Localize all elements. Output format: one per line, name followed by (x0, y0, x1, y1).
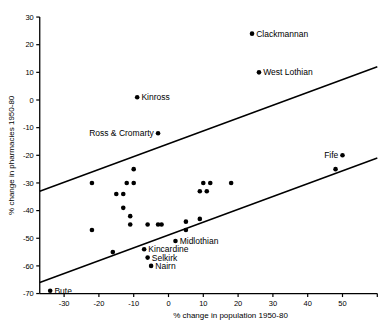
y-axis-tick-label: -20 (23, 151, 34, 160)
data-point (198, 189, 203, 194)
y-axis-tick-label: -40 (23, 206, 34, 215)
data-point-label: West Lothian (263, 67, 313, 77)
data-point (131, 181, 136, 186)
data-point-nairn (149, 264, 154, 269)
data-point (90, 181, 95, 186)
data-point (114, 192, 119, 197)
data-point-label: Nairn (155, 261, 176, 271)
data-point (111, 250, 116, 255)
data-point (159, 222, 164, 227)
y-axis-tick-label: 10 (25, 68, 33, 77)
y-axis-tick-label: 0 (30, 96, 34, 105)
x-axis-tick-label: 40 (304, 299, 312, 308)
data-point-label: Clackmannan (256, 29, 308, 39)
y-axis-title: % change in pharmacies 1950-80 (7, 95, 16, 215)
data-point (124, 181, 129, 186)
x-axis-title: % change in population 1950-80 (173, 311, 288, 320)
data-point (145, 222, 150, 227)
y-axis-tick-label: -60 (23, 262, 34, 271)
data-point (90, 228, 95, 233)
x-axis-tick-label: 10 (199, 299, 207, 308)
data-point (121, 192, 126, 197)
data-point-fife (340, 153, 345, 158)
lower-boundary-line (40, 158, 378, 282)
data-point (201, 181, 206, 186)
data-point-bute (48, 288, 53, 293)
data-point (198, 217, 203, 222)
x-axis-tick-label: -10 (128, 299, 139, 308)
y-axis-tick-label: -50 (23, 234, 34, 243)
data-point-west-lothian (257, 70, 262, 75)
data-point-ross-cromarty (156, 131, 161, 136)
data-point-selkirk (145, 255, 150, 260)
data-point (333, 167, 338, 172)
scatter-plot-figure: 3020100-10-20-30-40-50-60-70-30-20-10010… (0, 0, 380, 327)
y-axis-tick-label: -70 (23, 289, 34, 298)
data-point-label: Ross & Cromarty (89, 128, 154, 138)
data-point (128, 222, 133, 227)
data-point-label: Fife (324, 150, 338, 160)
x-axis-tick-label: -20 (93, 299, 104, 308)
data-point (121, 206, 126, 211)
data-point-label: Bute (54, 286, 72, 296)
data-point (131, 167, 136, 172)
y-axis-tick-label: -10 (23, 123, 34, 132)
x-axis-tick-label: 30 (269, 299, 277, 308)
y-axis-tick-label: 30 (25, 13, 33, 22)
data-point-kinross (135, 95, 140, 100)
data-point-clackmannan (250, 31, 255, 36)
data-point (184, 228, 189, 233)
data-point (128, 214, 133, 219)
y-axis-tick-label: 20 (25, 40, 33, 49)
x-axis-tick-label: 0 (166, 299, 170, 308)
y-axis-tick-label: -30 (23, 179, 34, 188)
data-point (184, 219, 189, 224)
data-point (208, 181, 213, 186)
x-axis-tick-label: 50 (338, 299, 346, 308)
data-point (229, 181, 234, 186)
data-point-label: Kinross (141, 92, 169, 102)
x-axis-tick-label: -30 (59, 299, 70, 308)
data-point (204, 189, 209, 194)
data-point-midlothian (173, 239, 178, 244)
x-axis-tick-label: 20 (234, 299, 242, 308)
data-point-kincardine (142, 247, 147, 252)
plot-canvas: 3020100-10-20-30-40-50-60-70-30-20-10010… (0, 0, 380, 327)
